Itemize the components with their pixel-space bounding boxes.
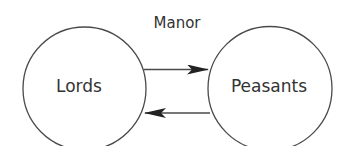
node-peasants: Peasants [208,27,332,147]
peasants-label: Peasants [231,76,307,96]
node-lords: Lords [23,27,146,146]
diagram-title: Manor [154,14,202,32]
manor-diagram: Manor Lords Peasants [0,0,350,146]
lords-label: Lords [56,76,102,96]
